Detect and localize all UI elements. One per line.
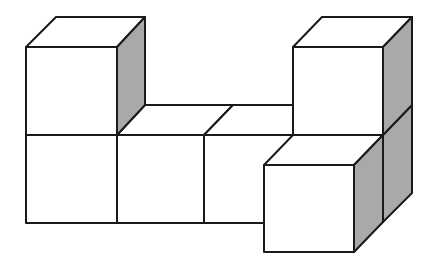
cube-top-left-front	[26, 47, 117, 135]
cube-bottom-2-front	[117, 135, 204, 223]
cube-front-right-front	[264, 165, 354, 252]
cube-diagram	[0, 0, 440, 271]
cube-bottom-1-front	[26, 135, 117, 223]
cube-structure	[26, 17, 412, 252]
cube-top-right-front	[293, 47, 383, 135]
